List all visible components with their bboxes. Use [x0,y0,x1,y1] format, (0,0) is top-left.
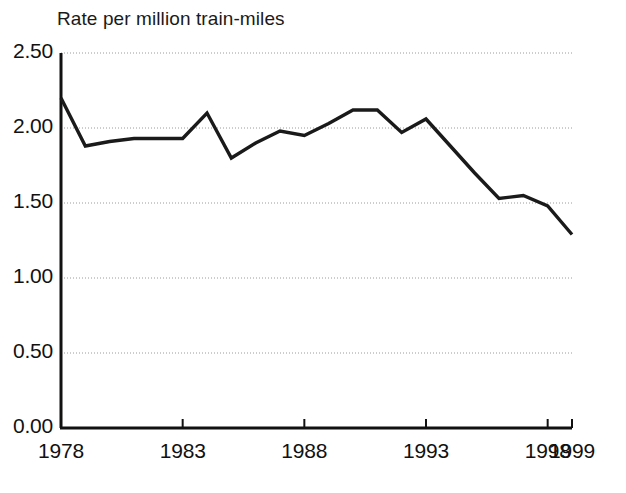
x-tick-label: 1988 [264,439,344,463]
axes-group [60,53,572,428]
x-tick-label: 1983 [143,439,223,463]
y-tick-label: 0.50 [0,339,53,363]
x-tick-label: 1999 [532,439,612,463]
y-tick-label: 1.50 [0,189,53,213]
chart-container: Rate per million train-miles 0.000.501.0… [0,0,626,493]
x-tick-label: 1978 [21,439,101,463]
y-tick-label: 2.00 [0,114,53,138]
data-line-group [61,98,572,235]
data-line [61,98,572,235]
y-tick-label: 0.00 [0,414,53,438]
x-tick-label: 1993 [386,439,466,463]
y-tick-label: 2.50 [0,39,53,63]
gridlines-group [61,53,572,353]
y-tick-label: 1.00 [0,264,53,288]
chart-plot-area [0,0,626,493]
